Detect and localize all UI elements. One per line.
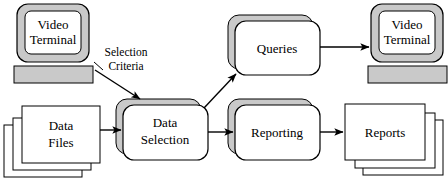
node-video-terminal-output[interactable]: Video Terminal	[368, 4, 447, 83]
terminal-keyboard-icon	[14, 66, 93, 83]
data-files-label-line1: Data	[49, 118, 74, 133]
data-selection-label-line2: Selection	[141, 132, 190, 147]
video-terminal-input-label-line2: Terminal	[30, 32, 77, 47]
video-terminal-input-label-line1: Video	[38, 17, 69, 32]
reporting-label-line1: Reporting	[251, 125, 303, 140]
node-reports[interactable]: Reports	[345, 104, 443, 175]
diagram-svg: Video Terminal Data Files Data Selection…	[0, 0, 448, 185]
edge-terminal-to-selection-leader	[94, 62, 103, 70]
diagram-canvas: Video Terminal Data Files Data Selection…	[0, 0, 448, 185]
node-reporting[interactable]: Reporting	[228, 99, 320, 160]
node-video-terminal-input[interactable]: Video Terminal	[14, 4, 93, 83]
terminal-output-keyboard-icon	[368, 66, 447, 83]
edge-terminal-to-selection	[95, 70, 140, 99]
data-files-label-line2: Files	[48, 135, 73, 150]
data-selection-label-line1: Data	[153, 115, 178, 130]
node-queries[interactable]: Queries	[228, 15, 320, 75]
reports-label-line1: Reports	[365, 125, 405, 140]
queries-label-line1: Queries	[257, 41, 297, 56]
video-terminal-output-label-line1: Video	[392, 17, 423, 32]
video-terminal-output-label-line2: Terminal	[384, 32, 431, 47]
node-data-files[interactable]: Data Files	[4, 106, 100, 177]
node-data-selection[interactable]: Data Selection	[116, 99, 208, 160]
edge-label-selection-criteria-line2: Criteria	[108, 60, 143, 72]
edge-label-selection-criteria-line1: Selection	[105, 46, 148, 58]
